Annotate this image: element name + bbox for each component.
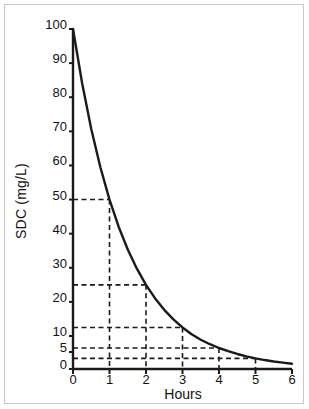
series-serum-drug-concentration: [73, 29, 292, 364]
decay-curve-plot: [5, 5, 309, 409]
chart-frame: SDC (mg/L) Hours 05102030405060708090100…: [4, 4, 304, 404]
